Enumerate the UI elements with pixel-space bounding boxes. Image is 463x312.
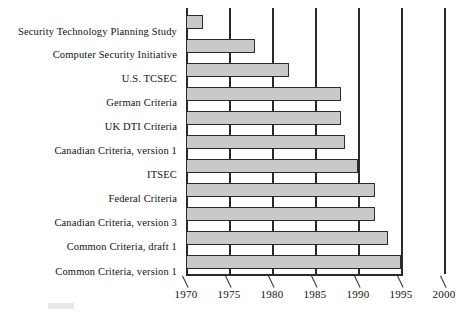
tick-1990 bbox=[354, 276, 365, 287]
tick-label: 1990 bbox=[338, 288, 378, 300]
bar bbox=[186, 183, 375, 198]
bar bbox=[186, 15, 203, 30]
plot-area: 1970197519801985199019952000 bbox=[186, 0, 463, 312]
bar bbox=[186, 111, 341, 126]
category-label: Computer Security Initiative bbox=[53, 49, 177, 60]
bar bbox=[186, 255, 401, 270]
tick-1985 bbox=[311, 276, 322, 287]
bar bbox=[186, 159, 358, 174]
category-label: Federal Criteria bbox=[108, 193, 177, 204]
category-label: German Criteria bbox=[106, 97, 177, 108]
tick-label: 1975 bbox=[209, 288, 249, 300]
category-labels: Security Technology Planning Study Compu… bbox=[0, 0, 181, 312]
tick-1975 bbox=[225, 276, 236, 287]
tick-1995 bbox=[397, 276, 408, 287]
tick-label: 2000 bbox=[424, 288, 463, 300]
category-label: U.S. TCSEC bbox=[122, 73, 177, 84]
tick-1980 bbox=[268, 276, 279, 287]
category-label: Canadian Criteria, version 3 bbox=[54, 217, 177, 228]
category-label: Common Criteria, draft 1 bbox=[67, 241, 177, 252]
tick-1970 bbox=[182, 276, 193, 287]
category-label: Canadian Criteria, version 1 bbox=[54, 145, 177, 156]
tick-label: 1995 bbox=[381, 288, 421, 300]
tick-2000 bbox=[440, 276, 451, 287]
security-criteria-timeline-chart: Security Technology Planning Study Compu… bbox=[0, 0, 463, 312]
page-artifact bbox=[48, 303, 74, 309]
tick-label: 1970 bbox=[166, 288, 206, 300]
category-label: Common Criteria, version 1 bbox=[55, 266, 177, 277]
bar bbox=[186, 231, 388, 246]
bar bbox=[186, 63, 289, 78]
gridline-2000 bbox=[444, 8, 446, 274]
category-label: Security Technology Planning Study bbox=[18, 26, 177, 37]
bar bbox=[186, 207, 375, 222]
category-label: ITSEC bbox=[147, 169, 177, 180]
x-axis-line bbox=[186, 274, 403, 276]
tick-label: 1985 bbox=[295, 288, 335, 300]
bar bbox=[186, 39, 255, 54]
gridline-1995 bbox=[401, 8, 403, 274]
category-label: UK DTI Criteria bbox=[105, 121, 177, 132]
tick-label: 1980 bbox=[252, 288, 292, 300]
bar bbox=[186, 135, 345, 150]
bar bbox=[186, 87, 341, 102]
